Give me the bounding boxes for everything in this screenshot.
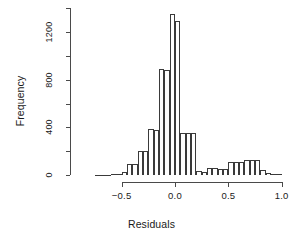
histogram-figure: 04008001200 −0.50.00.51.0 Frequency Resi… [0,0,303,241]
histogram-bar [191,133,196,175]
y-axis-title: Frequency [14,61,26,141]
x-axis-tick-label: 0.5 [208,190,248,201]
x-axis-tick-label: −0.5 [102,190,142,201]
y-axis-tick [66,104,70,105]
y-axis-tick-label: 800 [42,67,56,93]
y-axis-tick [66,8,70,9]
y-axis-tick [66,127,70,128]
y-axis-tick [66,175,70,176]
y-axis-tick [66,32,70,33]
y-axis-tick [66,151,70,152]
x-axis-line [122,182,282,183]
x-axis-tick [282,182,283,187]
y-axis-tick-label: 1200 [42,19,56,45]
x-axis-title: Residuals [0,218,303,230]
x-axis-tick [175,182,176,187]
y-axis-tick [66,56,70,57]
y-axis-tick-label: 400 [42,114,56,140]
y-axis-line [70,8,71,175]
y-axis-tick-label: 0 [42,162,56,188]
x-axis-tick-label: 1.0 [262,190,302,201]
histogram-bar [276,174,281,175]
plot-area: 04008001200 −0.50.00.51.0 Frequency Resi… [0,0,303,241]
y-axis-tick [66,80,70,81]
x-axis-tick-label: 0.0 [155,190,195,201]
x-axis-tick [122,182,123,187]
x-axis-tick [228,182,229,187]
